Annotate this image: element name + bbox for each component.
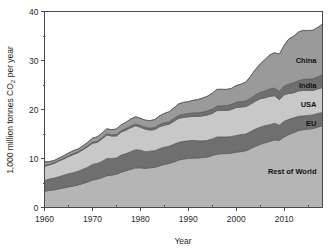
y-tick-label: 40 — [29, 7, 39, 17]
svg-text:1,000 million tonnes CO2 per y: 1,000 million tonnes CO2 per year — [5, 46, 16, 174]
x-tick-label: 1960 — [35, 214, 54, 224]
y-tick-label: 30 — [29, 56, 39, 66]
series-label-china: China — [296, 56, 318, 65]
y-tick-label: 20 — [29, 105, 39, 115]
x-tick-label: 1980 — [131, 214, 150, 224]
x-tick-label: 2000 — [227, 214, 246, 224]
x-tick-label: 1970 — [83, 214, 102, 224]
stacked-area-chart: 010203040 196019701980199020002010 China… — [0, 0, 334, 251]
series-label-usa: USA — [301, 100, 317, 109]
y-axis-title-pre: 1,000 million tonnes CO — [5, 83, 15, 174]
y-tick-label: 10 — [29, 154, 39, 164]
y-axis-title-post: per year — [5, 46, 15, 80]
x-axis-title: Year — [174, 236, 191, 246]
series-label-eu: EU — [306, 119, 316, 128]
x-tick-label: 2010 — [275, 214, 294, 224]
x-tick-label: 1990 — [179, 214, 198, 224]
y-tick-label: 0 — [34, 203, 39, 213]
series-label-india: India — [299, 81, 317, 90]
series-label-rest-of-world: Rest of World — [268, 167, 317, 176]
y-axis-title: 1,000 million tonnes CO2 per year — [5, 46, 16, 174]
chart-figure: 010203040 196019701980199020002010 China… — [0, 0, 334, 251]
